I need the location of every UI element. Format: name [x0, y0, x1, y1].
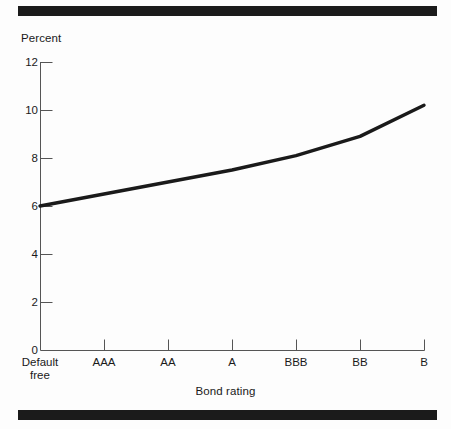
x-tick-label-b: B: [394, 356, 451, 369]
y-tick-label-0: 0: [18, 344, 38, 356]
x-tick-label-bb: BB: [330, 356, 390, 369]
x-tick-label-bbb: BBB: [266, 356, 326, 369]
y-tick-label-6: 6: [18, 200, 38, 212]
x-tick-label-aaa: AAA: [74, 356, 134, 369]
x-tick-label-line1: Default: [22, 356, 58, 368]
figure-container: Percent 12 10 8 6 4 2 0: [0, 0, 451, 429]
y-tick-marks: [41, 63, 53, 303]
y-tick-label-4: 4: [18, 248, 38, 260]
y-tick-label-12: 12: [18, 56, 38, 68]
y-tick-label-2: 2: [18, 296, 38, 308]
x-tick-label-a: A: [202, 356, 262, 369]
x-tick-label-aa: AA: [138, 356, 198, 369]
x-tick-marks: [105, 340, 425, 351]
x-tick-label-line2: free: [10, 369, 70, 382]
yield-curve-line: [40, 105, 424, 206]
x-tick-label-default-free: Default free: [10, 356, 70, 381]
bottom-rule-bar: [18, 410, 437, 420]
y-tick-label-8: 8: [18, 152, 38, 164]
x-axis-title: Bond rating: [0, 385, 451, 397]
y-tick-label-10: 10: [18, 104, 38, 116]
